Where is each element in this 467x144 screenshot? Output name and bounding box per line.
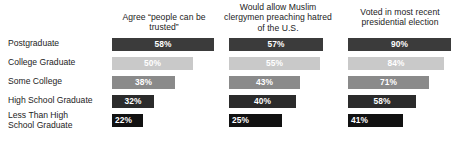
bar-muslim-some-college: 43% (229, 76, 300, 89)
bar-value-label: 40% (254, 95, 271, 108)
bar-value-label: 25% (232, 114, 249, 127)
bar-value-label: 55% (266, 57, 283, 70)
bar-value-label: 50% (144, 57, 161, 70)
bar-voted-postgraduate: 90% (348, 38, 451, 51)
bars-area: 58% 57% 90% 50% 55% 84% 38% (0, 36, 467, 144)
bar-row-college-graduate: 50% 55% 84% (0, 57, 467, 70)
bar-voted-less-than-high-school: 41% (348, 114, 403, 127)
bar-voted-high-school-graduate: 58% (348, 95, 416, 108)
bar-muslim-college-graduate: 55% (229, 57, 320, 70)
column-header-muslim-clergymen: Would allow Muslim clergymen preaching h… (222, 2, 334, 33)
bar-value-label: 71% (380, 76, 397, 89)
bar-row-postgraduate: 58% 57% 90% (0, 38, 467, 51)
bar-trust-some-college: 38% (112, 76, 175, 89)
bar-muslim-less-than-high-school: 25% (229, 114, 282, 127)
bar-value-label: 32% (124, 95, 141, 108)
column-header-voted: Voted in most recent presidential electi… (340, 7, 460, 28)
education-crosstab-bar-chart: Agree “people can be trusted” Would allo… (0, 0, 467, 144)
bar-trust-high-school-graduate: 32% (112, 95, 154, 108)
bar-trust-college-graduate: 50% (112, 57, 193, 70)
bar-trust-postgraduate: 58% (112, 38, 214, 51)
bar-value-label: 38% (135, 76, 152, 89)
column-headers: Agree “people can be trusted” Would allo… (0, 0, 467, 36)
bar-row-high-school-graduate: 32% 40% 58% (0, 95, 467, 108)
bar-muslim-postgraduate: 57% (229, 38, 323, 51)
bar-row-some-college: 38% 43% 71% (0, 76, 467, 89)
bar-value-label: 90% (391, 38, 408, 51)
bar-value-label: 22% (115, 114, 132, 127)
bar-value-label: 58% (373, 95, 390, 108)
bar-value-label: 43% (256, 76, 273, 89)
bar-value-label: 57% (267, 38, 284, 51)
bar-voted-college-graduate: 84% (348, 57, 444, 70)
bar-muslim-high-school-graduate: 40% (229, 95, 296, 108)
bar-value-label: 58% (154, 38, 171, 51)
bar-row-less-than-high-school: 22% 25% 41% (0, 114, 467, 127)
bar-value-label: 84% (387, 57, 404, 70)
column-header-trust: Agree “people can be trusted” (108, 12, 220, 33)
bar-trust-less-than-high-school: 22% (112, 114, 143, 127)
bar-voted-some-college: 71% (348, 76, 429, 89)
bar-value-label: 41% (351, 114, 368, 127)
